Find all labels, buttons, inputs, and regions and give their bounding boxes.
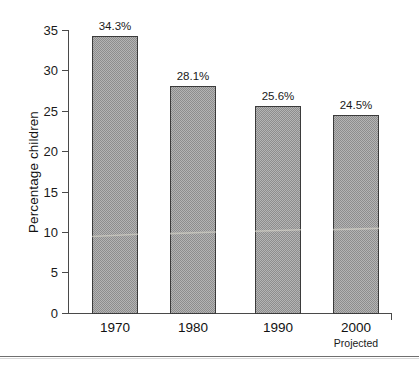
- page-footer-rule: [0, 356, 419, 357]
- x-tick-label-1970: 1970: [86, 320, 144, 335]
- value-label-1990: 25.6%: [255, 90, 301, 102]
- page-footer-rule-shadow: [0, 358, 419, 359]
- value-label-2000: 24.5%: [333, 99, 379, 111]
- bar-1970: [92, 36, 138, 314]
- value-label-1970: 34.3%: [92, 20, 138, 32]
- y-tick-label-35: 35: [34, 24, 58, 37]
- bar-chart-figure: Percentage children 0 5 10 15 20 25 30 3…: [0, 0, 419, 365]
- y-tick-15: [62, 192, 69, 193]
- bar-1980: [170, 86, 216, 314]
- y-tick-label-30: 30: [34, 64, 58, 77]
- y-tick-30: [62, 70, 69, 71]
- y-tick-label-5: 5: [34, 266, 58, 279]
- y-tick-label-10: 10: [34, 226, 58, 239]
- bar-2000: [333, 115, 379, 314]
- value-label-1980: 28.1%: [170, 70, 216, 82]
- x-axis-end-tick: [391, 313, 392, 320]
- y-tick-label-25: 25: [34, 105, 58, 118]
- y-tick-20: [62, 151, 69, 152]
- plot-area: Percentage children 0 5 10 15 20 25 30 3…: [0, 0, 419, 365]
- y-tick-5: [62, 272, 69, 273]
- y-tick-10: [62, 232, 69, 233]
- x-tick-label-1980: 1980: [164, 320, 222, 335]
- bar-1990: [255, 106, 301, 314]
- y-axis-title: Percentage children: [27, 72, 41, 272]
- y-tick-label-0: 0: [34, 307, 58, 320]
- x-tick-label-1990: 1990: [249, 320, 307, 335]
- y-tick-label-15: 15: [34, 186, 58, 199]
- x-sub-label-projected: Projected: [327, 337, 385, 349]
- y-tick-35: [62, 30, 69, 31]
- x-tick-label-2000: 2000: [327, 320, 385, 335]
- y-tick-label-20: 20: [34, 145, 58, 158]
- y-tick-0: [62, 313, 69, 314]
- y-tick-25: [62, 111, 69, 112]
